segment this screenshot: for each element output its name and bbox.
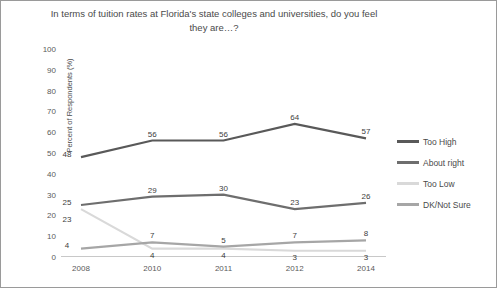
data-label: 5 xyxy=(221,236,225,245)
legend-item[interactable]: About right xyxy=(397,152,493,173)
legend-swatch xyxy=(397,161,419,164)
legend-label: Too High xyxy=(423,137,457,147)
data-label: 23 xyxy=(290,198,299,207)
chart-title: In terms of tuition rates at Florida's s… xyxy=(49,7,379,35)
y-axis-tick: 90 xyxy=(47,65,56,74)
data-label: 56 xyxy=(148,130,157,139)
y-axis-tick: 60 xyxy=(47,128,56,137)
legend-label: About right xyxy=(423,158,464,168)
data-label: 3 xyxy=(293,253,297,262)
data-label: 4 xyxy=(65,241,69,250)
x-axis-tick: 2008 xyxy=(72,264,90,273)
chart-container: In terms of tuition rates at Florida's s… xyxy=(0,0,497,288)
data-label: 7 xyxy=(293,231,297,240)
data-label: 4 xyxy=(150,251,154,260)
y-axis-tick: 10 xyxy=(47,232,56,241)
y-axis-tick: 70 xyxy=(47,107,56,116)
data-label: 57 xyxy=(362,127,371,136)
x-axis-tick: 2012 xyxy=(286,264,304,273)
data-label: 64 xyxy=(290,113,299,122)
legend-item[interactable]: Too Low xyxy=(397,173,493,194)
data-label: 25 xyxy=(63,198,72,207)
y-axis-tick: 100 xyxy=(43,45,56,54)
chart-legend: Too HighAbout rightToo LowDK/Not Sure xyxy=(397,131,493,215)
legend-label: DK/Not Sure xyxy=(423,200,471,210)
legend-swatch xyxy=(397,140,419,143)
y-axis-tick: 0 xyxy=(52,253,56,262)
data-label: 26 xyxy=(362,192,371,201)
data-label: 56 xyxy=(219,130,228,139)
y-axis-tick: 50 xyxy=(47,149,56,158)
plot-area: Percent of Respondents (%) 1009080706050… xyxy=(61,49,386,257)
legend-swatch xyxy=(397,203,419,206)
legend-item[interactable]: DK/Not Sure xyxy=(397,194,493,215)
y-axis-tick: 20 xyxy=(47,211,56,220)
x-axis-tick: 2010 xyxy=(143,264,161,273)
data-label: 30 xyxy=(219,184,228,193)
x-axis-tick: 2011 xyxy=(215,264,232,273)
y-axis-tick: 30 xyxy=(47,190,56,199)
data-label: 48 xyxy=(63,150,72,159)
y-axis-tick: 80 xyxy=(47,86,56,95)
y-axis-tick: 40 xyxy=(47,169,56,178)
legend-label: Too Low xyxy=(423,179,455,189)
data-label: 3 xyxy=(364,253,368,262)
data-label: 4 xyxy=(221,251,225,260)
data-label: 29 xyxy=(148,186,157,195)
data-label: 8 xyxy=(364,229,368,238)
data-label: 7 xyxy=(150,231,154,240)
series-lines xyxy=(61,49,386,257)
x-axis-tick: 2014 xyxy=(357,264,375,273)
data-label: 23 xyxy=(63,215,72,224)
legend-item[interactable]: Too High xyxy=(397,131,493,152)
legend-swatch xyxy=(397,182,419,185)
series-line xyxy=(81,195,366,210)
